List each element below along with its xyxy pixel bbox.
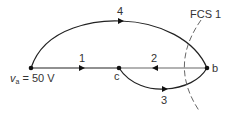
node-a-label: va = 50 V [10,72,55,85]
edge-4 [31,21,207,68]
edge-4-arrow-icon [118,18,124,24]
edge-3 [119,68,207,89]
edge-3-arrow-icon [162,86,168,92]
node-a-value: = 50 V [19,72,55,84]
node-b-label: b [212,62,218,74]
edge-3-label: 3 [161,94,167,106]
edge-2-arrow-icon [152,65,158,71]
edge-4-label: 4 [117,5,123,17]
cutset-line [184,20,201,112]
edge-1-label: 1 [79,52,85,64]
diagram-canvas: 4 1 2 3 c b FCS 1 va = 50 V [0,0,227,120]
edge-1-arrow-icon [79,65,85,71]
edge-2-label: 2 [151,52,157,64]
cutset-label: FCS 1 [190,8,221,20]
node-c-label: c [114,70,120,82]
node-b [205,66,210,71]
node-a [29,66,34,71]
